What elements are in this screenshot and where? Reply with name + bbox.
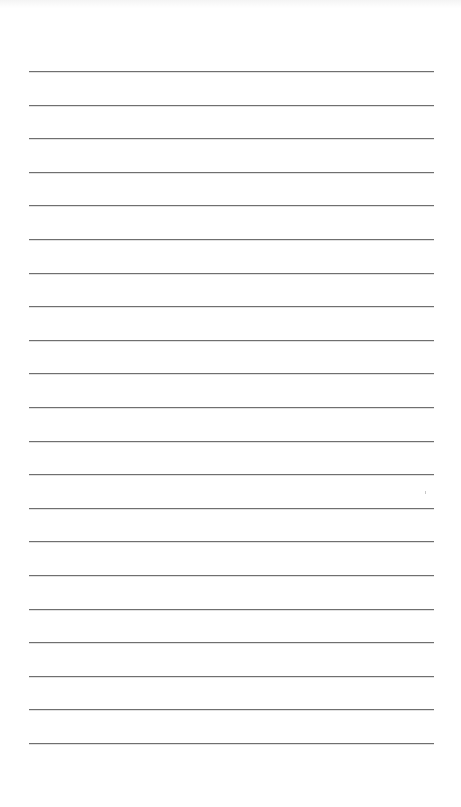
- ruled-line: [29, 71, 434, 72]
- ruled-line: [29, 205, 434, 206]
- ruled-line: [29, 306, 434, 307]
- ruled-line: [29, 609, 434, 610]
- ruled-line: [29, 441, 434, 442]
- ruled-line: [29, 474, 434, 475]
- paper-speck: [425, 491, 426, 494]
- lined-paper-page: [0, 0, 461, 807]
- ruled-line: [29, 407, 434, 408]
- ruled-line: [29, 508, 434, 509]
- ruled-line: [29, 575, 434, 576]
- ruled-line: [29, 340, 434, 341]
- ruled-line: [29, 138, 434, 139]
- ruled-line: [29, 105, 434, 106]
- ruled-line: [29, 676, 434, 677]
- ruled-line: [29, 743, 434, 744]
- top-edge-shading: [0, 0, 461, 8]
- ruled-line: [29, 709, 434, 710]
- ruled-line: [29, 172, 434, 173]
- ruled-line: [29, 642, 434, 643]
- ruled-line: [29, 373, 434, 374]
- ruled-line: [29, 541, 434, 542]
- ruled-line: [29, 273, 434, 274]
- ruled-line: [29, 239, 434, 240]
